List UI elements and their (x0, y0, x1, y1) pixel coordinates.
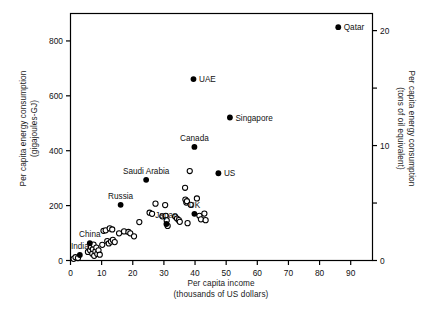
data-point-label: Singapore (235, 114, 273, 123)
data-point-label: Qatar (344, 23, 365, 32)
y-axis-left-title-line1: Per capita energy consumption (19, 29, 30, 229)
data-point-filled (335, 24, 341, 30)
y-axis-left-tick-label: 200 (49, 201, 63, 211)
data-point-open (202, 211, 207, 216)
data-point-filled (163, 221, 169, 227)
data-point-label: China (79, 230, 101, 239)
x-axis: 0102030405060708090 (68, 261, 356, 278)
unlabeled-points (71, 168, 208, 261)
y-axis-right-title-line2: (tons of oil equivalent) (395, 29, 406, 229)
y-axis-left-title: Per capita energy consumption (gigajoule… (19, 29, 40, 229)
data-point-open (153, 201, 158, 206)
data-point-label: Canada (180, 134, 209, 143)
y-axis-right-title: Per capita energy consumption (tons of o… (395, 29, 416, 229)
x-axis-tick-label: 90 (346, 268, 356, 278)
data-point-label: Saudi Arabia (123, 167, 170, 176)
data-point-open (112, 240, 117, 245)
data-point-label: India (71, 242, 89, 251)
data-point-filled (215, 170, 221, 176)
x-axis-tick-label: 50 (222, 268, 232, 278)
data-point-open (149, 211, 154, 216)
data-point-open (97, 252, 102, 257)
x-axis-tick-label: 10 (97, 268, 107, 278)
data-point-label: Russia (108, 192, 133, 201)
plot-canvas: 0200400600800010200102030405060708090Qat… (0, 0, 425, 319)
y-axis-right-tick-label: 20 (380, 26, 390, 36)
data-point-open (137, 219, 142, 224)
data-point-label: UAE (199, 75, 216, 84)
data-point-open (163, 202, 168, 207)
x-axis-tick-label: 0 (68, 268, 73, 278)
data-point-open (185, 221, 190, 226)
y-axis-right: 01020 (373, 26, 390, 266)
y-axis-left-tick-label: 0 (58, 256, 63, 266)
x-axis-tick-label: 20 (128, 268, 138, 278)
x-axis-tick-label: 60 (253, 268, 263, 278)
data-point-filled (118, 202, 124, 208)
x-axis-tick-label: 70 (284, 268, 294, 278)
data-point-filled (77, 252, 83, 258)
y-axis-left-title-line2: (gigajoules-GJ) (29, 29, 40, 229)
x-axis-tick-label: 30 (159, 268, 169, 278)
x-axis-title-line2: (thousands of US dollars) (70, 290, 372, 301)
y-axis-right-tick-label: 10 (380, 141, 390, 151)
data-point-open (131, 234, 136, 239)
data-point-label: Japan (155, 211, 178, 220)
y-axis-left-tick-label: 800 (49, 36, 63, 46)
scatter-plot-figure: 0200400600800010200102030405060708090Qat… (0, 0, 425, 319)
data-point-filled (192, 144, 198, 150)
data-point-open (182, 185, 187, 190)
x-axis-title: Per capita income (thousands of US dolla… (70, 279, 372, 300)
x-axis-title-line1: Per capita income (70, 279, 372, 290)
y-axis-left-tick-label: 400 (49, 146, 63, 156)
data-point-filled (192, 211, 198, 217)
data-point-label: US (224, 169, 236, 178)
plot-frame (71, 14, 373, 261)
y-axis-left: 0200400600800 (49, 36, 70, 266)
data-point-filled (227, 115, 233, 121)
data-point-open (116, 231, 121, 236)
y-axis-right-tick-label: 0 (380, 256, 385, 266)
data-point-filled (191, 76, 197, 82)
data-point-filled (143, 177, 149, 183)
data-point-open (177, 219, 182, 224)
data-point-label: UK (189, 201, 201, 210)
y-axis-right-title-line1: Per capita energy consumption (405, 29, 416, 229)
data-point-open (203, 218, 208, 223)
y-axis-left-tick-label: 600 (49, 91, 63, 101)
data-point-open (100, 242, 105, 247)
x-axis-tick-label: 80 (315, 268, 325, 278)
data-point-open (187, 168, 192, 173)
x-axis-tick-label: 40 (190, 268, 200, 278)
labeled-points: QatarUAESingaporeCanadaUSSaudi ArabiaRus… (71, 23, 365, 258)
data-point-open (110, 227, 115, 232)
